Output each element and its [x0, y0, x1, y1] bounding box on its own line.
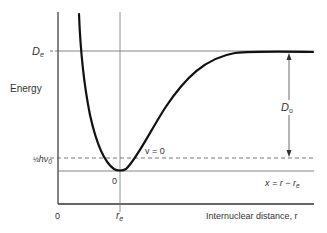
displacement-label: x = r − re	[264, 178, 300, 189]
distance-axis-label: Internuclear distance, r	[206, 211, 298, 221]
energy-axis-label: Energy	[10, 83, 42, 94]
d0-label: Do	[281, 101, 293, 114]
d0-arrow-head-down	[287, 150, 292, 157]
de-label: De	[32, 45, 44, 58]
v0-level-label: v = 0	[145, 146, 165, 156]
d0-arrow-head-up	[287, 53, 292, 60]
minimum-zero-label: 0	[112, 176, 117, 186]
origin-label: 0	[55, 211, 60, 221]
morse-curve	[79, 14, 313, 171]
zero-point-energy-label: ½hν0	[33, 154, 52, 165]
morse-potential-diagram: De Energy ½hν0 v = 0 0 Do x = r − re 0 r…	[0, 0, 327, 233]
